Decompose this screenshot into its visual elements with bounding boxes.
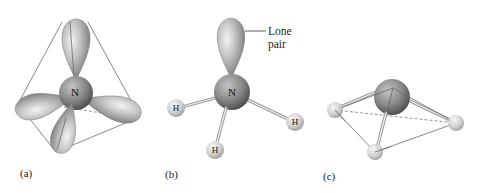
bond-bottom: [377, 113, 386, 148]
hydrogen-label: H: [173, 103, 180, 113]
hydrogen-label: H: [292, 117, 299, 127]
base-atom-right: [448, 115, 464, 131]
lone-pair-label-line2: pair: [268, 38, 286, 51]
bond-left: [340, 92, 376, 107]
panel-b: Lone pair N H H H (b): [165, 18, 304, 181]
orbital-lobe-top: [62, 19, 90, 80]
hydrogen-label: H: [212, 145, 219, 155]
bond-bottom: [216, 108, 226, 146]
central-atom-sphere: [374, 79, 410, 115]
tetrahedron-edge: [18, 22, 62, 104]
nitrogen-label: N: [71, 86, 79, 98]
lone-pair-lobe: [217, 18, 245, 78]
panel-c: (c): [323, 79, 464, 183]
ammonia-geometry-figure: N (a) Lone pair N H H: [0, 0, 494, 193]
panel-label-b: (b): [165, 168, 178, 181]
panel-label-a: (a): [20, 167, 33, 180]
bond-right: [248, 100, 290, 120]
bond-right: [408, 100, 452, 121]
panel-a: N (a): [13, 19, 145, 180]
panel-label-c: (c): [323, 170, 336, 183]
nitrogen-label: N: [228, 86, 236, 98]
lone-pair-label-line1: Lone: [268, 25, 292, 37]
bond-left: [182, 98, 215, 107]
